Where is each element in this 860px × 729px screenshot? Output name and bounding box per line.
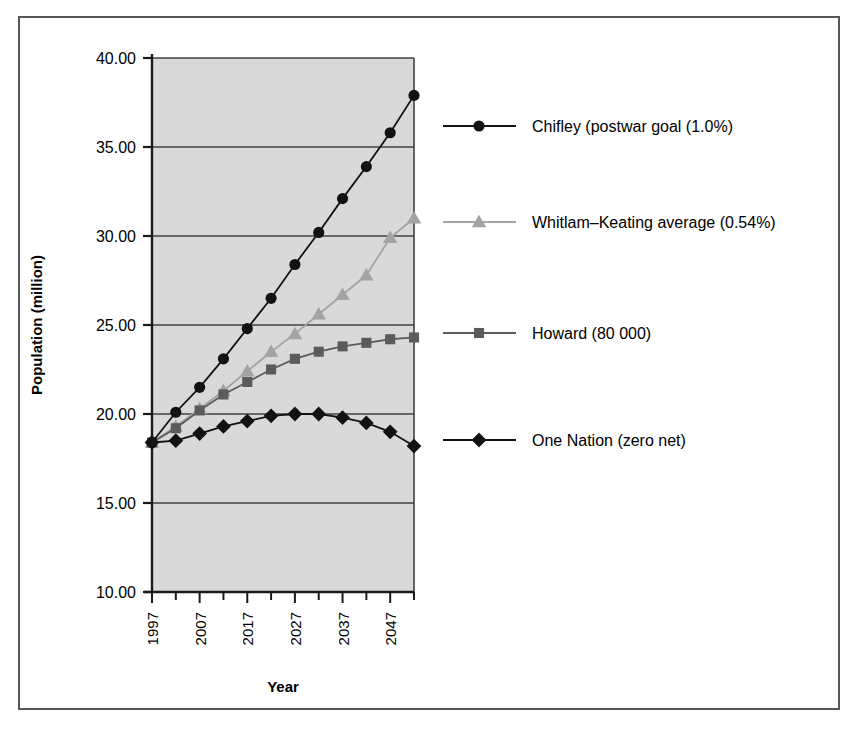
population-projection-chart: 10.0015.0020.0025.0030.0035.0040.0019972… — [0, 0, 860, 729]
legend-label: Whitlam–Keating average (0.54%) — [532, 214, 776, 231]
marker-circle — [266, 293, 277, 304]
marker-square — [338, 341, 348, 351]
marker-square — [409, 332, 419, 342]
legend-item-1[interactable]: Chifley (postwar goal (1.0%) — [443, 118, 733, 135]
figure: 10.0015.0020.0025.0030.0035.0040.0019972… — [0, 0, 860, 729]
marker-square — [266, 364, 276, 374]
marker-square — [290, 354, 300, 364]
marker-square — [385, 334, 395, 344]
marker-circle — [170, 407, 181, 418]
y-tick-label: 20.00 — [96, 406, 136, 423]
marker-circle — [289, 259, 300, 270]
y-tick-label: 15.00 — [96, 495, 136, 512]
y-tick-label: 35.00 — [96, 139, 136, 156]
marker-square — [242, 377, 252, 387]
x-axis-title: Year — [267, 678, 299, 695]
legend-item-2[interactable]: Whitlam–Keating average (0.54%) — [443, 214, 776, 231]
marker-diamond — [472, 433, 487, 448]
legend-label: Chifley (postwar goal (1.0%) — [532, 118, 733, 135]
marker-circle — [194, 382, 205, 393]
marker-circle — [408, 90, 419, 101]
x-tick-label: 2007 — [192, 612, 209, 645]
y-tick-label: 30.00 — [96, 228, 136, 245]
legend-label: One Nation (zero net) — [532, 432, 686, 449]
x-tick-label: 2037 — [335, 612, 352, 645]
y-tick-label: 40.00 — [96, 50, 136, 67]
marker-circle — [361, 161, 372, 172]
marker-circle — [218, 353, 229, 364]
marker-square — [218, 389, 228, 399]
y-tick-label: 10.00 — [96, 584, 136, 601]
marker-circle — [313, 227, 324, 238]
marker-circle — [385, 127, 396, 138]
marker-square — [314, 347, 324, 357]
marker-square — [474, 328, 484, 338]
legend-label: Howard (80 000) — [532, 325, 651, 342]
x-tick-label: 1997 — [144, 612, 161, 645]
marker-square — [171, 423, 181, 433]
y-axis-title: Population (million) — [28, 255, 45, 395]
x-tick-label: 2017 — [239, 612, 256, 645]
y-tick-label: 25.00 — [96, 317, 136, 334]
marker-circle — [473, 120, 484, 131]
x-tick-label: 2047 — [382, 612, 399, 645]
legend-item-3[interactable]: Howard (80 000) — [443, 325, 651, 342]
marker-circle — [242, 323, 253, 334]
marker-square — [195, 405, 205, 415]
marker-square — [361, 338, 371, 348]
legend-item-4[interactable]: One Nation (zero net) — [443, 432, 686, 449]
chart-canvas: 10.0015.0020.0025.0030.0035.0040.0019972… — [0, 0, 860, 729]
x-tick-label: 2027 — [287, 612, 304, 645]
marker-circle — [337, 193, 348, 204]
